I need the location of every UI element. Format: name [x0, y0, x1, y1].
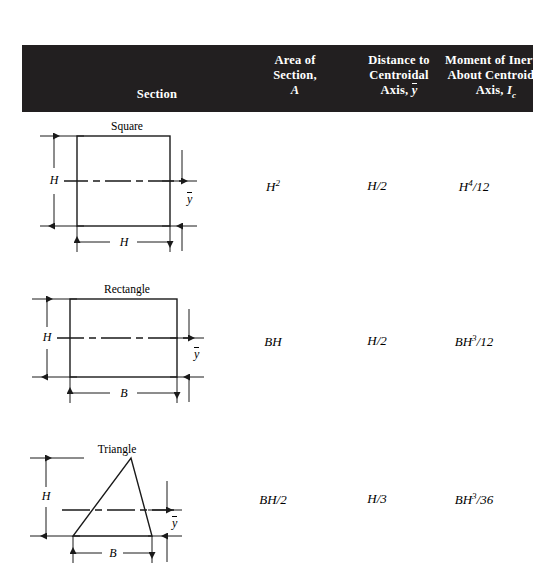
column-header-moment-line1: Moment of Inertia — [426, 53, 556, 68]
column-header-section-text: Section — [137, 87, 177, 101]
dimension-label-height: H — [44, 174, 64, 186]
dimension-label-height: H — [37, 331, 57, 343]
dimension-label-centroid: y — [187, 192, 192, 207]
figure-rectangle: Rectangle — [22, 283, 222, 413]
dimension-label-height: H — [36, 490, 56, 502]
cell-moment-rectangle: BH3/12 — [404, 333, 544, 350]
figure-triangle: Triangle — [22, 443, 222, 573]
column-header-distance-axis-label: Axis, — [381, 83, 409, 97]
column-header-area-symbol: A — [291, 83, 300, 97]
dimension-label-width: B — [114, 387, 134, 399]
column-header-distance-symbol: y — [412, 83, 418, 98]
table-header-band: S Section Area of Section, A Distance to… — [22, 45, 533, 112]
table-row: Triangle — [0, 443, 556, 573]
cell-moment-triangle: BH3/36 — [404, 491, 544, 508]
column-header-moment: Moment of Inertia About Centroidal Axis,… — [426, 53, 556, 103]
cell-moment-square: H4/12 — [404, 178, 544, 195]
dimension-label-centroid: y — [194, 347, 199, 362]
table-row: Rectangle — [0, 283, 556, 413]
figure-square: Square — [22, 120, 222, 260]
column-header-moment-subscript: c — [512, 90, 516, 100]
dimension-label-width: B — [103, 547, 123, 559]
column-header-moment-axis-label: Axis, — [476, 83, 504, 97]
table-row: Square — [0, 120, 556, 260]
column-header-moment-line2: About Centroidal — [426, 68, 556, 83]
dimension-label-centroid: y — [172, 516, 177, 531]
column-header-section: S Section — [82, 87, 232, 102]
dimension-label-width: H — [114, 236, 134, 248]
